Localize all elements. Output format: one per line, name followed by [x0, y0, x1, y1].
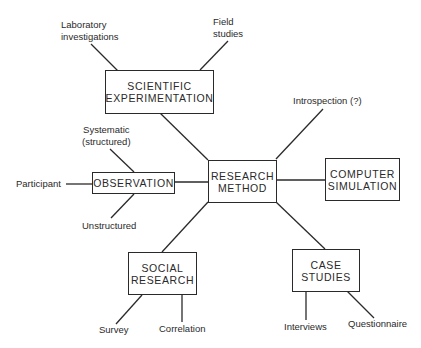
node-label: SIMULATION [328, 180, 397, 192]
node-label: EXPERIMENTATION [106, 92, 214, 104]
node-label: RESEARCH [131, 274, 194, 286]
leaf-text: Questionnaire [348, 318, 407, 330]
node-label: RESEARCH [211, 170, 274, 182]
node-research-method: RESEARCH METHOD [208, 160, 277, 203]
leaf-text: (structured) [82, 136, 131, 148]
leaf-interviews: Interviews [284, 321, 327, 333]
node-label: OBSERVATION [93, 177, 174, 189]
leaf-survey: Survey [99, 324, 129, 336]
node-case-studies: CASE STUDIES [292, 249, 360, 292]
node-label: SOCIAL [141, 262, 183, 274]
leaf-text: Participant [16, 178, 61, 190]
edge-field [200, 41, 228, 70]
edge-questionnaire [347, 291, 374, 318]
node-label: STUDIES [301, 271, 351, 283]
leaf-text: investigations [61, 31, 119, 43]
leaf-participant: Participant [16, 178, 61, 190]
leaf-systematic-structured: Systematic (structured) [82, 124, 131, 147]
node-social-research: SOCIAL RESEARCH [128, 252, 197, 295]
node-label: COMPUTER [330, 168, 395, 180]
node-computer-simulation: COMPUTER SIMULATION [325, 158, 400, 201]
leaf-questionnaire: Questionnaire [348, 318, 407, 330]
leaf-correlation: Correlation [159, 323, 205, 335]
leaf-laboratory-investigations: Laboratory investigations [61, 19, 119, 42]
leaf-text: Correlation [159, 323, 205, 335]
edge-systematic [110, 149, 134, 172]
node-label: METHOD [218, 182, 267, 194]
research-method-diagram: SCIENTIFIC EXPERIMENTATION RESEARCH METH… [0, 0, 421, 348]
edge-unstructured [111, 194, 134, 218]
edge-social [162, 202, 208, 252]
edge-scientific-central [160, 113, 208, 160]
node-label: SCIENTIFIC [127, 80, 191, 92]
leaf-text: Survey [99, 324, 129, 336]
leaf-text: Interviews [284, 321, 327, 333]
leaf-introspection: Introspection (?) [293, 95, 362, 107]
node-label: CASE [311, 259, 342, 271]
edge-laboratory [91, 44, 118, 71]
leaf-text: Systematic [82, 124, 131, 136]
node-scientific-experimentation: SCIENTIFIC EXPERIMENTATION [105, 70, 214, 114]
leaf-field-studies: Field studies [213, 16, 243, 39]
node-observation: OBSERVATION [92, 172, 175, 194]
edge-case [276, 202, 325, 249]
leaf-text: Laboratory [61, 19, 119, 31]
edge-survey [116, 295, 142, 324]
leaf-text: Unstructured [82, 220, 136, 232]
leaf-text: Introspection (?) [293, 95, 362, 107]
leaf-text: Field [213, 16, 243, 28]
edge-introspection [276, 109, 323, 159]
leaf-unstructured: Unstructured [82, 220, 136, 232]
leaf-text: studies [213, 28, 243, 40]
